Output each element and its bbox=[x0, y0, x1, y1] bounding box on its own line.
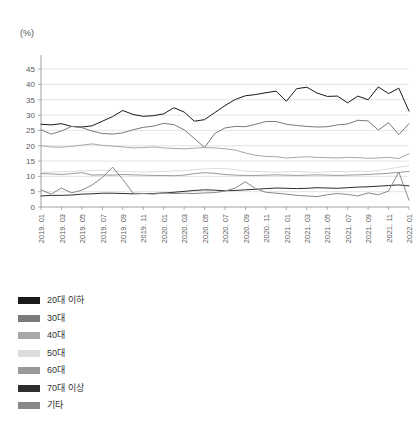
series-line bbox=[41, 171, 409, 175]
series-line bbox=[41, 144, 409, 159]
legend-label: 60대 bbox=[47, 366, 65, 375]
chart-page: (%) 0510152025303540452019. 012019. 0320… bbox=[0, 0, 418, 425]
x-tick-label: 2019. 03 bbox=[58, 214, 67, 243]
x-tick-label: 2021. 11 bbox=[385, 214, 394, 243]
y-tick-label: 40 bbox=[26, 80, 35, 89]
legend-swatch-70dae-isang bbox=[18, 385, 40, 392]
y-tick-label: 10 bbox=[26, 172, 35, 181]
x-tick-label: 2021. 01 bbox=[283, 214, 292, 243]
legend-label: 기타 bbox=[47, 401, 63, 410]
x-tick-label: 2019. 09 bbox=[119, 214, 128, 243]
legend-item: 70대 이상 bbox=[18, 380, 268, 398]
x-tick-label: 2020. 05 bbox=[201, 214, 210, 243]
x-tick-label: 2019. 11 bbox=[139, 214, 148, 243]
x-tick-label: 2019. 01 bbox=[37, 214, 46, 243]
x-tick-label: 2020. 01 bbox=[160, 214, 169, 243]
legend-item: 60대 bbox=[18, 362, 268, 380]
x-tick-label: 2020. 09 bbox=[242, 214, 251, 243]
y-tick-label: 0 bbox=[31, 203, 36, 212]
legend-item: 30대 bbox=[18, 310, 268, 328]
x-tick-label: 2022. 01 bbox=[405, 214, 414, 243]
legend-swatch-60dae bbox=[18, 367, 40, 374]
x-tick-label: 2020. 11 bbox=[262, 214, 271, 243]
x-tick-label: 2020. 03 bbox=[180, 214, 189, 243]
line-chart: 0510152025303540452019. 012019. 032019. … bbox=[0, 55, 418, 265]
legend-item: 50대 bbox=[18, 345, 268, 363]
legend-label: 20대 이하 bbox=[47, 296, 84, 305]
series-line bbox=[41, 166, 409, 172]
y-tick-label: 15 bbox=[26, 157, 35, 166]
legend-swatch-30dae bbox=[18, 315, 40, 322]
x-tick-label: 2021. 03 bbox=[303, 214, 312, 243]
x-tick-label: 2021. 07 bbox=[344, 214, 353, 243]
legend-swatch-40dae bbox=[18, 332, 40, 339]
x-tick-label: 2019. 07 bbox=[99, 214, 108, 243]
series-line bbox=[41, 185, 409, 196]
legend-item: 20대 이하 bbox=[18, 292, 268, 310]
legend-label: 30대 bbox=[47, 314, 65, 323]
series-line bbox=[41, 167, 409, 200]
legend-swatch-50dae bbox=[18, 350, 40, 357]
y-tick-label: 45 bbox=[26, 65, 35, 74]
legend-label: 50대 bbox=[47, 349, 65, 358]
y-tick-label: 30 bbox=[26, 111, 35, 120]
x-tick-label: 2021. 09 bbox=[364, 214, 373, 243]
legend-item: 기타 bbox=[18, 397, 268, 415]
x-tick-label: 2021. 05 bbox=[323, 214, 332, 243]
y-tick-label: 5 bbox=[31, 187, 36, 196]
y-tick-label: 25 bbox=[26, 126, 35, 135]
y-tick-label: 20 bbox=[26, 142, 35, 151]
legend-swatch-20dae-ihha bbox=[18, 297, 40, 304]
x-tick-label: 2019. 05 bbox=[78, 214, 87, 243]
legend-label: 40대 bbox=[47, 331, 65, 340]
y-tick-label: 35 bbox=[26, 96, 35, 105]
chart-svg: 0510152025303540452019. 012019. 032019. … bbox=[0, 55, 418, 265]
legend-item: 40대 bbox=[18, 327, 268, 345]
y-axis-unit-label: (%) bbox=[20, 28, 34, 38]
chart-legend: 20대 이하 30대 40대 50대 60대 70대 이상 기타 bbox=[18, 292, 268, 415]
x-tick-label: 2020. 07 bbox=[221, 214, 230, 243]
legend-swatch-gita bbox=[18, 402, 40, 409]
series-line bbox=[41, 87, 409, 127]
legend-label: 70대 이상 bbox=[47, 384, 84, 393]
